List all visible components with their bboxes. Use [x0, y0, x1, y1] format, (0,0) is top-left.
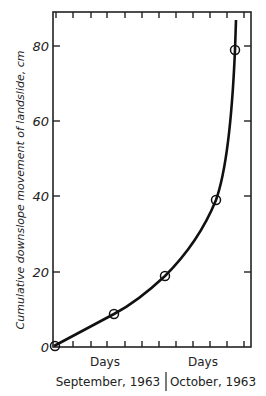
- month-label-october: October, 1963: [170, 375, 256, 389]
- data-points: [51, 46, 240, 351]
- ytick-0: 0: [41, 340, 49, 355]
- ytick-60: 60: [32, 114, 49, 129]
- month-label-september: September, 1963: [56, 375, 161, 389]
- ytick-40: 40: [32, 189, 49, 204]
- y-axis-label: Cumulative downslope movement of landsli…: [14, 51, 27, 330]
- left-ticks: [53, 46, 60, 272]
- right-ticks: [244, 46, 251, 272]
- ytick-20: 20: [32, 265, 49, 280]
- x-label-days-october: Days: [188, 355, 218, 369]
- bottom-ticks: [73, 341, 244, 347]
- movement-curve: [54, 20, 236, 346]
- top-ticks: [56, 12, 244, 18]
- ytick-80: 80: [32, 39, 49, 54]
- chart: 0 20 40 60 80 Cumulative downslope movem…: [0, 0, 266, 396]
- x-label-days-september: Days: [90, 355, 120, 369]
